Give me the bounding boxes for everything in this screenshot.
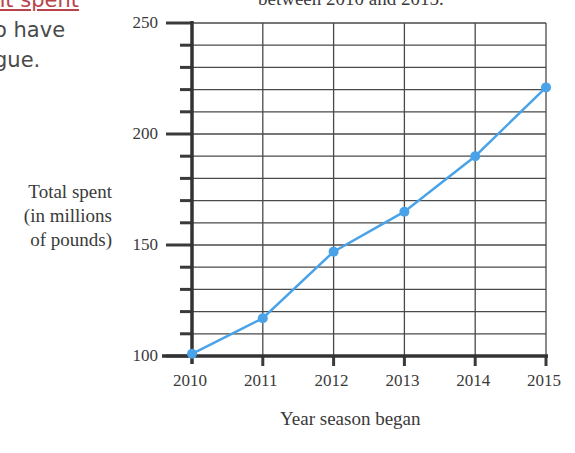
data-point xyxy=(541,82,551,92)
y-tick-label: 200 xyxy=(133,124,159,143)
data-point xyxy=(187,349,197,359)
y-tick-label: 250 xyxy=(133,13,159,32)
line-chart: 100150200250201020112012201320142015 xyxy=(0,0,575,453)
x-tick-label: 2015 xyxy=(527,371,561,390)
x-tick-label: 2012 xyxy=(315,371,349,390)
x-tick-label: 2011 xyxy=(244,371,277,390)
y-tick-label: 100 xyxy=(133,346,159,365)
x-tick-label: 2013 xyxy=(385,371,419,390)
data-point xyxy=(329,247,339,257)
data-line xyxy=(192,87,546,353)
data-point xyxy=(399,207,409,217)
data-point xyxy=(470,151,480,161)
x-tick-label: 2014 xyxy=(456,371,491,390)
y-tick-label: 150 xyxy=(133,235,159,254)
data-point xyxy=(258,313,268,323)
x-tick-label: 2010 xyxy=(173,371,207,390)
